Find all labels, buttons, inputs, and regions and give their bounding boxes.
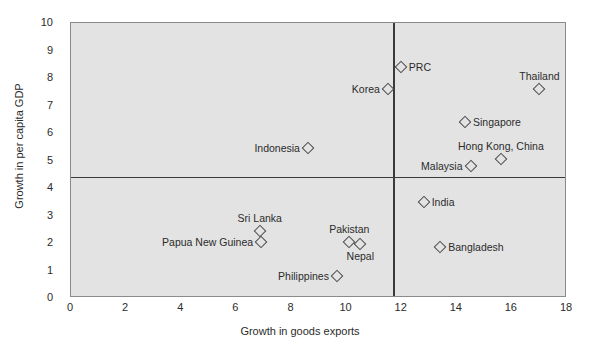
data-point-label: Sri Lanka: [238, 212, 282, 223]
y-tick-label: 10: [41, 17, 53, 28]
data-point-label: Indonesia: [254, 143, 300, 154]
data-point-label: Hong Kong, China: [458, 141, 544, 152]
y-axis-label: Growth in per capita GDP: [13, 31, 25, 261]
data-point-label: Nepal: [347, 251, 374, 262]
data-point-marker: [494, 153, 507, 166]
data-point-label: Singapore: [473, 117, 521, 128]
x-tick-label: 4: [177, 302, 183, 313]
plot-area: PRCKoreaThailandSingaporeHong Kong, Chin…: [70, 22, 566, 297]
x-tick-label: 10: [339, 302, 351, 313]
y-tick-label: 2: [47, 237, 53, 248]
data-point-label: Malaysia: [421, 161, 462, 172]
y-tick-label: 3: [47, 209, 53, 220]
x-tick-label: 2: [122, 302, 128, 313]
data-point-label: Pakistan: [329, 223, 369, 234]
data-point-marker: [459, 116, 472, 129]
data-point-marker: [417, 195, 430, 208]
y-tick-label: 7: [47, 99, 53, 110]
data-point-marker: [464, 160, 477, 173]
y-tick-label: 9: [47, 44, 53, 55]
data-point-label: Thailand: [519, 71, 559, 82]
x-tick-label: 6: [232, 302, 238, 313]
x-tick-label: 0: [67, 302, 73, 313]
data-point-marker: [382, 83, 395, 96]
data-point-label: Korea: [352, 84, 380, 95]
x-tick-label: 18: [560, 302, 572, 313]
data-point-marker: [434, 241, 447, 254]
x-axis-label: Growth in goods exports: [0, 325, 600, 337]
data-point-marker: [394, 61, 407, 74]
x-tick-label: 14: [450, 302, 462, 313]
y-tick-label: 0: [47, 292, 53, 303]
y-tick-label: 1: [47, 264, 53, 275]
data-point-marker: [331, 270, 344, 283]
data-point-marker: [255, 235, 268, 248]
data-point-marker: [302, 142, 315, 155]
data-point-label: India: [432, 197, 455, 208]
data-point-label: Bangladesh: [448, 242, 503, 253]
x-tick-label: 16: [505, 302, 517, 313]
y-tick-label: 8: [47, 72, 53, 83]
y-tick-label: 4: [47, 182, 53, 193]
data-point-marker: [343, 235, 356, 248]
data-point-marker: [354, 238, 367, 251]
y-tick-label: 6: [47, 127, 53, 138]
horizontal-reference-line: [71, 177, 565, 178]
x-tick-label: 8: [287, 302, 293, 313]
data-point-label: PRC: [409, 62, 431, 73]
data-point-label: Philippines: [278, 271, 329, 282]
scatter-chart-figure: PRCKoreaThailandSingaporeHong Kong, Chin…: [0, 0, 600, 359]
data-point-label: Papua New Guinea: [162, 236, 253, 247]
y-tick-label: 5: [47, 154, 53, 165]
x-tick-label: 12: [395, 302, 407, 313]
data-point-marker: [533, 83, 546, 96]
vertical-reference-line: [393, 23, 394, 296]
